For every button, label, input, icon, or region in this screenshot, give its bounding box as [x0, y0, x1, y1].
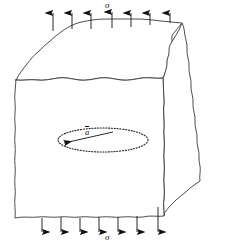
crack-radius-label: a	[85, 126, 89, 136]
block-right-face	[163, 23, 200, 216]
block-front-face	[15, 78, 165, 218]
stress-label-top: σ	[105, 1, 109, 10]
penny-crack-diagram	[0, 0, 227, 247]
figure-canvas: σ σ a	[0, 0, 227, 247]
stress-label-bottom: σ	[105, 233, 109, 242]
crack-radius-glyph: a	[85, 128, 89, 137]
solid-block	[15, 19, 201, 218]
block-top-face	[16, 19, 182, 80]
